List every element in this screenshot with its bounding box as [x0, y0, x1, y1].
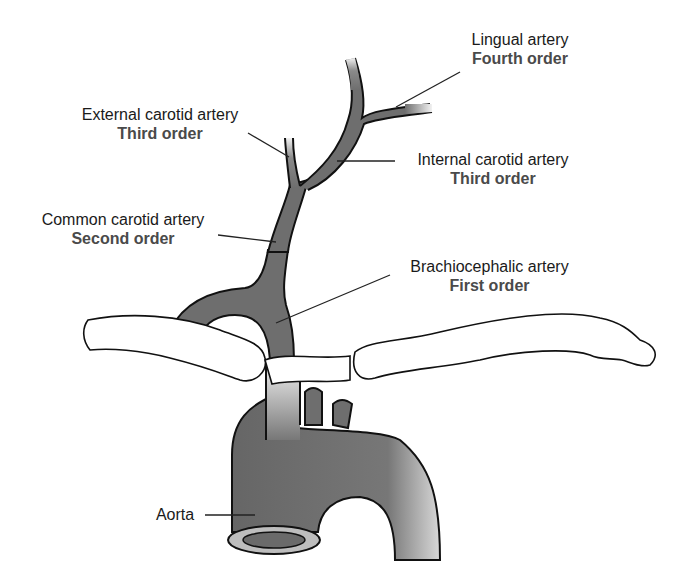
- label-external-carotid-artery: External carotid artery Third order: [60, 105, 260, 143]
- label-name: Common carotid artery: [28, 210, 218, 229]
- label-name: Aorta: [145, 505, 205, 524]
- label-internal-carotid-artery: Internal carotid artery Third order: [398, 150, 588, 188]
- label-common-carotid-artery: Common carotid artery Second order: [28, 210, 218, 248]
- leader-brachiocephalic: [276, 275, 390, 323]
- label-order: Third order: [60, 124, 260, 143]
- label-brachiocephalic-artery: Brachiocephalic artery First order: [392, 257, 587, 295]
- label-name: Brachiocephalic artery: [392, 257, 587, 276]
- label-order: Second order: [28, 229, 218, 248]
- clavicle-bones: [84, 314, 655, 384]
- label-order: Third order: [398, 169, 588, 188]
- leader-lingual: [396, 72, 460, 107]
- label-lingual-artery: Lingual artery Fourth order: [455, 30, 585, 68]
- artery-order-diagram: Lingual artery Fourth order External car…: [0, 0, 683, 572]
- label-name: Lingual artery: [455, 30, 585, 49]
- label-order: Fourth order: [455, 49, 585, 68]
- label-name: External carotid artery: [60, 105, 260, 124]
- aorta-vessel: [228, 360, 440, 560]
- label-order: First order: [392, 276, 587, 295]
- label-name: Internal carotid artery: [398, 150, 588, 169]
- leader-common-carotid: [218, 235, 276, 242]
- label-aorta: Aorta: [145, 505, 205, 524]
